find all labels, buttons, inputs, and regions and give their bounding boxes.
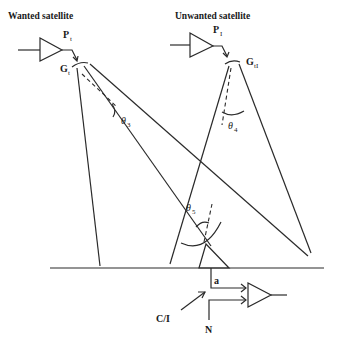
ground-station: θ 5 — [50, 202, 324, 268]
wanted-gain-sub: t — [68, 69, 70, 77]
theta3-label: θ — [121, 115, 126, 126]
wanted-power-label: P — [63, 29, 69, 40]
unwanted-amplifier-icon — [190, 33, 213, 57]
unwanted-power-label: P — [213, 24, 219, 35]
unwanted-satellite-title: Unwanted satellite — [175, 11, 250, 21]
combiner-amplifier-icon — [248, 283, 271, 307]
wanted-beam-to-ground — [84, 66, 211, 246]
unwanted-satellite: Unwanted satellite P I G tI θ 4 — [170, 11, 311, 264]
wanted-power-sub: t — [70, 35, 72, 43]
unwanted-antenna-dish-icon — [225, 61, 240, 64]
unwanted-gain-sub: tI — [254, 62, 259, 70]
wanted-beam-left-edge — [77, 68, 100, 266]
unwanted-beam-to-ground — [170, 66, 229, 264]
node-a-label: a — [214, 275, 219, 286]
receiver-combiner: a N C/I — [156, 268, 287, 335]
theta4-arc — [222, 111, 244, 115]
noise-label: N — [205, 324, 213, 335]
ci-pointer-line — [181, 292, 205, 310]
wanted-amplifier-icon — [40, 38, 62, 61]
wanted-satellite-title: Wanted satellite — [8, 11, 73, 21]
theta4-sub: 4 — [234, 126, 238, 134]
ground-antenna-dish-icon — [181, 222, 221, 246]
theta3-sub: 3 — [127, 121, 131, 129]
unwanted-gain-label: G — [246, 56, 254, 67]
wanted-antenna-dish-icon — [72, 63, 88, 68]
wanted-boresight-axis — [82, 74, 117, 107]
ground-antenna-mount-icon — [199, 244, 229, 268]
unwanted-power-sub: I — [220, 30, 223, 38]
interference-geometry-diagram: Wanted satellite P t G t θ 3 Unwanted sa… — [0, 0, 337, 341]
noise-path — [209, 300, 246, 320]
unwanted-boresight-axis — [222, 68, 231, 125]
wanted-satellite: Wanted satellite P t G t θ 3 — [8, 11, 308, 266]
unwanted-beam-right-edge — [239, 64, 311, 253]
theta5-sub: 5 — [192, 208, 196, 216]
theta5-label: θ — [186, 202, 191, 213]
wanted-gain-label: G — [60, 63, 68, 74]
theta4-label: θ — [228, 120, 233, 131]
ci-label: C/I — [156, 313, 170, 324]
